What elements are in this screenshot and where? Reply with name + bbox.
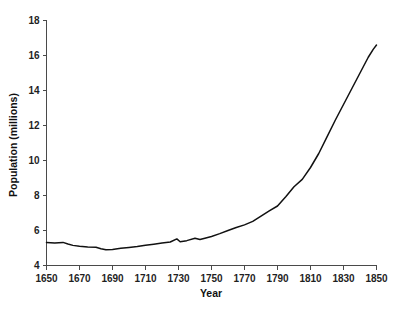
x-tick-label-1730: 1730 <box>167 273 190 284</box>
x-tick-label-1690: 1690 <box>101 273 124 284</box>
chart-background <box>0 0 397 309</box>
x-tick-label-1830: 1830 <box>332 273 355 284</box>
y-tick-label-4: 4 <box>34 260 40 271</box>
x-tick-label-1790: 1790 <box>266 273 289 284</box>
x-tick-label-1650: 1650 <box>35 273 58 284</box>
y-tick-label-10: 10 <box>28 155 40 166</box>
x-tick-label-1850: 1850 <box>365 273 388 284</box>
x-tick-label-1670: 1670 <box>68 273 91 284</box>
y-tick-label-8: 8 <box>34 190 40 201</box>
y-tick-label-6: 6 <box>34 225 40 236</box>
x-axis-tick-labels: 1650167016901710173017501770179018101830… <box>35 273 388 284</box>
x-tick-label-1710: 1710 <box>134 273 157 284</box>
chart-plot-area: 4681012141618 16501670169017101730175017… <box>0 0 397 309</box>
x-tick-label-1750: 1750 <box>200 273 223 284</box>
y-tick-label-16: 16 <box>28 50 40 61</box>
x-axis-title: Year <box>200 287 222 299</box>
y-tick-label-18: 18 <box>28 15 40 26</box>
population-line-chart: 4681012141618 16501670169017101730175017… <box>0 0 397 309</box>
x-tick-label-1810: 1810 <box>299 273 322 284</box>
x-tick-label-1770: 1770 <box>233 273 256 284</box>
y-tick-label-12: 12 <box>28 120 40 131</box>
y-axis-title: Population (millions) <box>7 93 19 197</box>
y-tick-label-14: 14 <box>28 85 40 96</box>
